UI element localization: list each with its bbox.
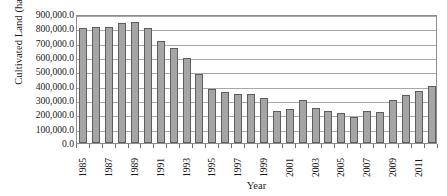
x-axis-tick-label: 1997 — [232, 153, 243, 183]
bar — [273, 111, 281, 143]
bar — [195, 74, 203, 143]
x-axis-tick-label: 2003 — [309, 153, 320, 183]
x-axis-tick-labels: 1985198719891991199319951997199920012003… — [76, 148, 437, 178]
bar — [363, 111, 371, 143]
y-axis-tick-label: 200,000.0 — [16, 110, 74, 120]
x-axis-tick-label: 2001 — [283, 153, 294, 183]
x-axis-tick-label: 2007 — [361, 153, 372, 183]
x-axis-tick-label: 1989 — [129, 153, 140, 183]
bar — [312, 108, 320, 143]
x-axis-tick-label: 2005 — [335, 153, 346, 183]
bar — [208, 89, 216, 143]
bar — [415, 91, 423, 143]
y-axis-tick-label: 100,000.0 — [16, 125, 74, 135]
x-axis-title: Year — [76, 180, 437, 191]
x-axis-tick-label: 2009 — [386, 153, 397, 183]
bar — [428, 86, 436, 143]
bar — [260, 98, 268, 143]
bar — [105, 27, 113, 143]
x-axis-tick-label: 1999 — [257, 153, 268, 183]
bar — [350, 117, 358, 143]
y-axis-tick-label: 700,000.0 — [16, 39, 74, 49]
y-axis-tick-label: 0.0 — [16, 139, 74, 149]
bar — [376, 112, 384, 143]
x-axis-tick-label: 1993 — [180, 153, 191, 183]
y-axis-tick-label: 600,000.0 — [16, 53, 74, 63]
bar-series — [77, 16, 436, 143]
bar — [234, 94, 242, 143]
bar — [389, 100, 397, 143]
bar — [157, 41, 165, 143]
bar — [337, 113, 345, 143]
cultivated-land-bar-chart: Cultivated Land (ha) 900,000.0800,000.07… — [0, 0, 447, 196]
x-axis-tick-label: 1987 — [103, 153, 114, 183]
bar — [118, 23, 126, 143]
y-axis-tick-label: 800,000.0 — [16, 24, 74, 34]
bar — [247, 94, 255, 143]
bar — [183, 58, 191, 143]
bar — [402, 95, 410, 143]
bar — [170, 48, 178, 143]
bar — [144, 28, 152, 143]
y-axis-tick-labels: 900,000.0800,000.0700,000.0600,000.0500,… — [16, 9, 74, 151]
x-axis-tick-label: 1991 — [154, 153, 165, 183]
x-axis-tick-label: 2011 — [412, 153, 423, 183]
y-axis-tick-label: 300,000.0 — [16, 96, 74, 106]
x-axis-tick-label: 1995 — [206, 153, 217, 183]
x-axis-tick — [437, 144, 438, 148]
y-axis-tick-label: 400,000.0 — [16, 82, 74, 92]
plot-area — [76, 15, 437, 144]
x-axis-tick-label: 1985 — [77, 153, 88, 183]
y-axis-tick-label: 900,000.0 — [16, 10, 74, 20]
bar — [79, 28, 87, 143]
bar — [299, 100, 307, 143]
bar — [286, 109, 294, 143]
bar — [221, 92, 229, 143]
bar — [92, 27, 100, 143]
y-axis-tick-label: 500,000.0 — [16, 67, 74, 77]
bar — [324, 111, 332, 143]
bar — [131, 22, 139, 143]
